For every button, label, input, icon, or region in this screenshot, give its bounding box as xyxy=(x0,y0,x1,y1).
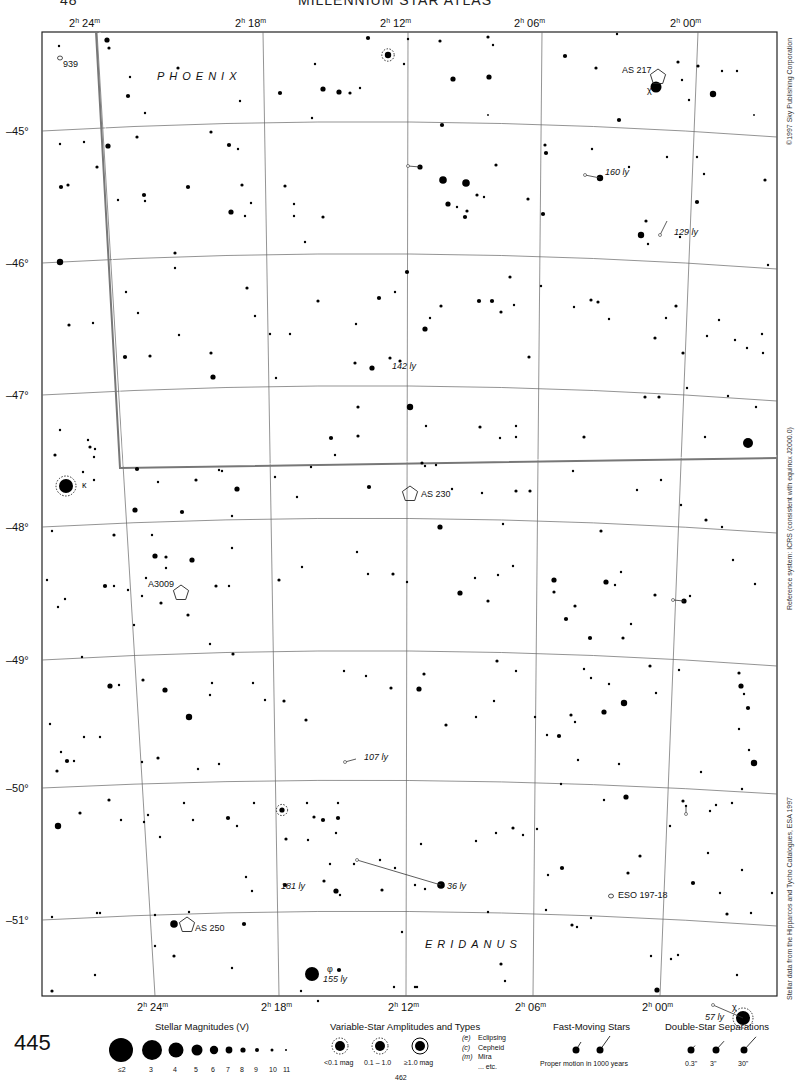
separation-label: 30" xyxy=(738,1060,749,1067)
star xyxy=(703,173,705,175)
star xyxy=(355,323,357,325)
star xyxy=(736,70,738,72)
stars-layer xyxy=(46,33,773,1028)
star xyxy=(356,434,359,437)
star xyxy=(152,553,157,558)
star xyxy=(660,479,662,481)
star xyxy=(755,406,757,408)
star xyxy=(393,986,395,988)
star xyxy=(603,579,608,584)
star xyxy=(353,863,355,865)
star xyxy=(301,566,303,568)
star xyxy=(741,869,743,871)
star xyxy=(210,374,215,379)
star xyxy=(107,683,112,688)
star xyxy=(209,351,212,354)
star xyxy=(159,601,162,604)
variable-amplitude-label: ≥1.0 mag xyxy=(404,1059,433,1067)
distance-label: 129 ly xyxy=(674,227,699,237)
fast-moving-legend-title: Fast-Moving Stars xyxy=(553,1021,630,1032)
copyright-note: ©1997 Sky Publishing Corporation xyxy=(786,38,794,145)
star xyxy=(129,76,131,78)
star xyxy=(746,347,748,349)
star xyxy=(704,436,706,438)
star xyxy=(591,148,593,150)
star xyxy=(389,686,392,689)
star xyxy=(487,911,489,913)
star xyxy=(145,577,147,579)
star xyxy=(337,968,341,972)
legend: 445Stellar Magnitudes (V)≤234567891011Va… xyxy=(14,1021,769,1081)
star xyxy=(244,215,246,217)
star xyxy=(178,334,180,336)
star xyxy=(608,683,610,685)
star xyxy=(135,467,139,471)
proper-motion-arrowhead xyxy=(712,1004,715,1007)
proper-motion-arrowhead xyxy=(407,165,410,168)
star xyxy=(314,63,316,65)
star xyxy=(107,798,110,801)
proper-motion-arrowhead xyxy=(672,599,675,602)
ra-gridline xyxy=(406,32,408,996)
star xyxy=(51,530,53,532)
star xyxy=(570,923,573,926)
star xyxy=(253,802,255,804)
star xyxy=(245,286,248,289)
star xyxy=(164,555,167,558)
distance-label: 142 ly xyxy=(392,361,417,371)
star xyxy=(439,304,442,307)
star xyxy=(719,892,721,894)
magnitude-label: 6 xyxy=(211,1066,215,1073)
star xyxy=(407,404,413,410)
star xyxy=(435,464,437,466)
star xyxy=(748,749,750,751)
asterism-pentagon-icon xyxy=(173,585,188,600)
star xyxy=(596,300,599,303)
star xyxy=(388,356,391,359)
star xyxy=(117,199,119,201)
star xyxy=(689,595,691,597)
ra-tick-label-top: 2h 06m xyxy=(514,17,545,29)
star xyxy=(112,533,115,536)
variable-type-code: (m) xyxy=(462,1053,473,1061)
constellation-boundary xyxy=(96,32,777,468)
star xyxy=(304,718,307,721)
star xyxy=(727,395,729,397)
star xyxy=(321,818,325,822)
star xyxy=(157,481,159,483)
star xyxy=(300,990,302,992)
star xyxy=(93,479,95,481)
star xyxy=(599,529,602,532)
star xyxy=(236,825,238,827)
object-label: AS 250 xyxy=(195,923,225,933)
star xyxy=(356,551,358,553)
star xyxy=(66,183,69,186)
asterism-pentagon-icon xyxy=(650,69,665,84)
star xyxy=(60,751,62,753)
variable-amplitude-label: <0.1 mag xyxy=(324,1059,353,1067)
star xyxy=(420,843,422,845)
star xyxy=(462,179,470,187)
star xyxy=(394,867,396,869)
star xyxy=(336,89,341,94)
star xyxy=(365,675,367,677)
star xyxy=(391,572,394,575)
star xyxy=(94,448,96,450)
star xyxy=(499,437,501,439)
variables-legend-title: Variable-Star Amplitudes and Types xyxy=(330,1021,480,1032)
data-source-note: Stellar data from the Hipparcos and Tych… xyxy=(786,797,794,1000)
star xyxy=(113,585,115,587)
star xyxy=(691,881,695,885)
star xyxy=(486,35,489,38)
galaxy-icon xyxy=(58,56,63,60)
star xyxy=(623,794,628,799)
object-label: AS 230 xyxy=(421,489,451,499)
star xyxy=(582,435,585,438)
star xyxy=(494,163,497,166)
star xyxy=(474,577,476,579)
star xyxy=(180,510,184,514)
star xyxy=(87,439,89,441)
previous-page-number: 445 xyxy=(14,1030,51,1055)
star xyxy=(353,361,356,364)
star xyxy=(151,534,153,536)
